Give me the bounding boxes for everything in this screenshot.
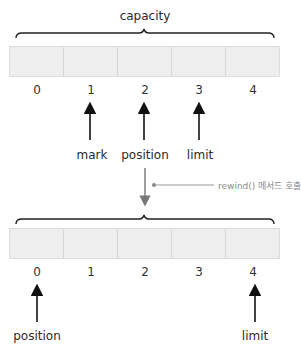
note-leader-line	[152, 183, 214, 187]
index-label: 4	[249, 265, 257, 279]
buffer-cell	[172, 47, 226, 76]
index-label: 4	[249, 83, 257, 97]
capacity-brace	[16, 29, 274, 38]
limit-label: limit	[187, 148, 213, 162]
index-label: 3	[195, 265, 203, 279]
capacity-label: capacity	[120, 9, 171, 23]
position-label: position	[121, 148, 169, 162]
index-label: 1	[87, 83, 95, 97]
index-label: 0	[33, 265, 41, 279]
rewind-note: rewind() 메서드 호출	[218, 179, 301, 192]
index-label: 0	[33, 83, 41, 97]
buffer-cell	[226, 47, 279, 76]
index-label: 3	[195, 83, 203, 97]
bottom-buffer-array	[9, 228, 280, 259]
buffer-cell	[118, 229, 172, 258]
top-buffer-array	[9, 46, 280, 77]
index-label: 2	[141, 83, 149, 97]
buffer-cell	[172, 229, 226, 258]
index-label: 1	[87, 265, 95, 279]
bottom-limit-label: limit	[242, 329, 268, 343]
buffer-cell	[10, 47, 64, 76]
mark-label: mark	[77, 148, 108, 162]
buffer-cell	[118, 47, 172, 76]
buffer-cell	[10, 229, 64, 258]
buffer-cell	[64, 229, 118, 258]
buffer-cell	[226, 229, 279, 258]
bottom-position-label: position	[13, 329, 61, 343]
buffer-cell	[64, 47, 118, 76]
index-label: 2	[141, 265, 149, 279]
bottom-brace	[16, 215, 274, 224]
